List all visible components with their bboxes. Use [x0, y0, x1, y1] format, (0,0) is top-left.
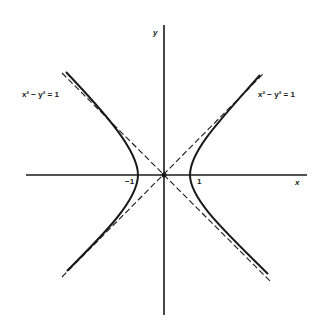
hyperbola-diagram — [0, 0, 326, 328]
x-axis-label: x — [295, 178, 299, 187]
left-equation-label: x² − y² = 1 — [22, 90, 59, 99]
tick-label-neg-one: −1 — [125, 177, 134, 186]
hyperbola-left-branch — [66, 72, 138, 271]
origin-point — [162, 173, 167, 178]
right-equation-label: x² − y² = 1 — [258, 90, 295, 99]
y-axis-label: y — [153, 28, 157, 37]
tick-label-one: 1 — [197, 177, 201, 186]
asymptote-y-equals-neg-x — [62, 73, 272, 283]
